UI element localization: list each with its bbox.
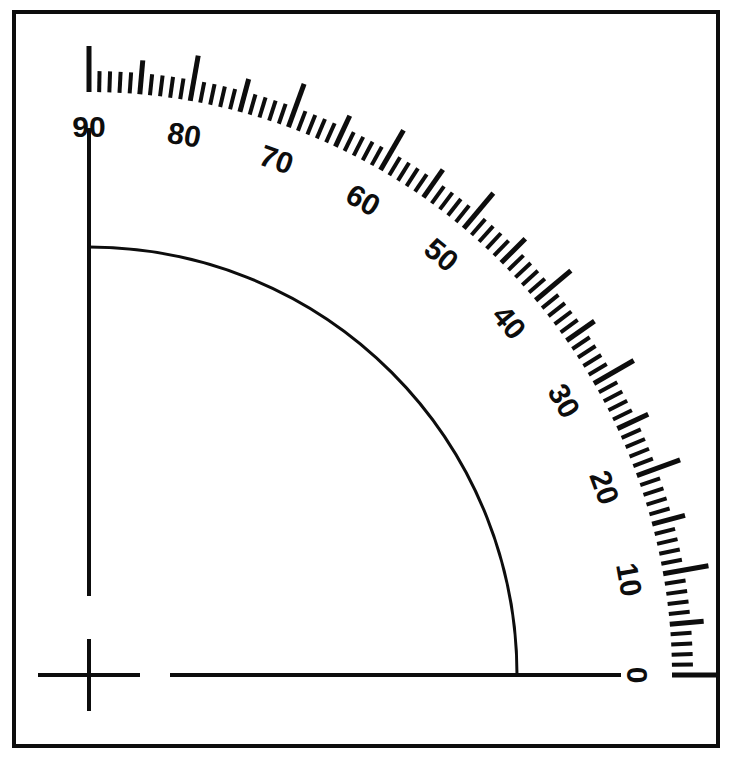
tick-label-10: 10 xyxy=(610,560,648,599)
tick-minor-88 xyxy=(109,71,110,92)
tick-label-80: 80 xyxy=(165,116,204,154)
tick-minor-2 xyxy=(672,654,693,655)
tick-medium-85 xyxy=(140,60,143,94)
tick-minor-86 xyxy=(130,72,131,93)
figure-background xyxy=(0,0,729,764)
tick-minor-4 xyxy=(671,633,692,634)
tick-minor-84 xyxy=(150,74,152,95)
tick-minor-83 xyxy=(160,76,163,97)
tick-label-90: 90 xyxy=(72,110,105,143)
figure-root: 0102030405060708090 xyxy=(0,0,729,764)
tick-label-0: 0 xyxy=(621,667,654,684)
protractor-diagram: 0102030405060708090 xyxy=(0,0,729,764)
tick-medium-5 xyxy=(670,621,704,624)
tick-minor-3 xyxy=(671,643,692,644)
tick-minor-87 xyxy=(120,72,121,93)
tick-minor-7 xyxy=(668,601,689,604)
tick-minor-6 xyxy=(669,612,690,614)
